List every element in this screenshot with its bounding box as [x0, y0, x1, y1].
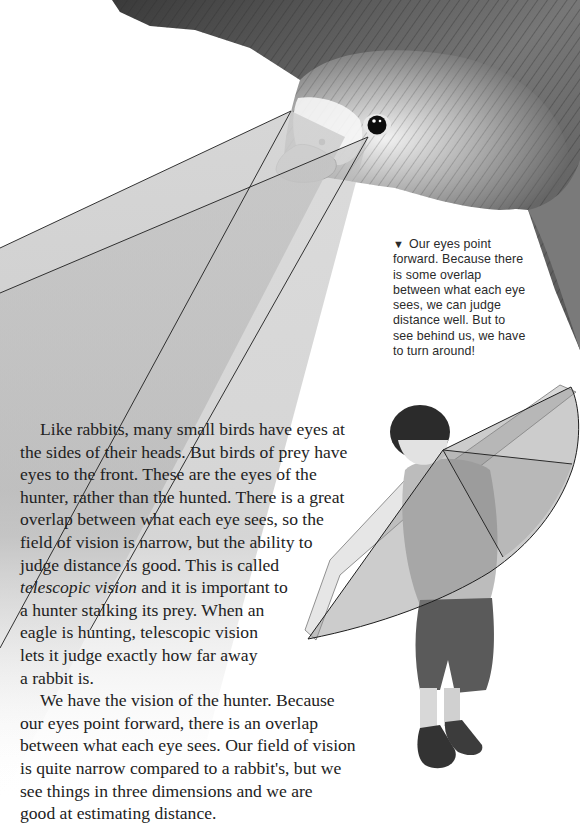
- body-text: Like rabbits, many small birds have eyes…: [20, 418, 460, 825]
- text-line: a rabbit is.: [20, 667, 460, 690]
- text-line: lets it judge exactly how far away: [20, 644, 460, 667]
- text-line: good at estimating distance.: [20, 802, 460, 825]
- text-fragment: and it is important to: [137, 577, 288, 597]
- text-line: hunter, rather than the hunted. There is…: [20, 486, 460, 509]
- text-line: eyes to the front. These are the eyes of…: [20, 463, 460, 486]
- text-line: eagle is hunting, telescopic vision: [20, 621, 460, 644]
- paragraph-telescopic-vision: Like rabbits, many small birds have eyes…: [20, 418, 460, 689]
- text-line: judge distance is good. This is called: [20, 554, 460, 577]
- text-line: is quite narrow compared to a rabbit's, …: [20, 757, 460, 780]
- paragraph-human-vision: We have the vision of the hunter. Becaus…: [20, 689, 460, 825]
- text-line: Like rabbits, many small birds have eyes…: [20, 418, 460, 441]
- text-line: overlap between what each eye sees, so t…: [20, 508, 460, 531]
- text-line: telescopic vision and it is important to: [20, 576, 460, 599]
- caption-line: between what each eye: [393, 283, 573, 298]
- text-line: We have the vision of the hunter. Becaus…: [20, 689, 460, 712]
- term-telescopic-vision: telescopic vision: [20, 577, 137, 597]
- text-line: the sides of their heads. But birds of p…: [20, 441, 460, 464]
- text-line: field of vision is narrow, but the abili…: [20, 531, 460, 554]
- caption-line: Our eyes point: [409, 237, 491, 251]
- text-line: a hunter stalking its prey. When an: [20, 599, 460, 622]
- figure-caption: ▼Our eyes point forward. Because there i…: [393, 237, 573, 359]
- caption-line: see behind us, we have: [393, 329, 573, 344]
- caption-line: distance well. But to: [393, 313, 573, 328]
- text-line: see things in three dimensions and we ar…: [20, 780, 460, 803]
- caption-line: is some overlap: [393, 268, 573, 283]
- triangle-pointer-icon: ▼: [393, 238, 404, 250]
- caption-line: forward. Because there: [393, 252, 573, 267]
- text-line: our eyes point forward, there is an over…: [20, 712, 460, 735]
- text-line: between what each eye sees. Our field of…: [20, 734, 460, 757]
- caption-line: sees, we can judge: [393, 298, 573, 313]
- caption-line: to turn around!: [393, 344, 573, 359]
